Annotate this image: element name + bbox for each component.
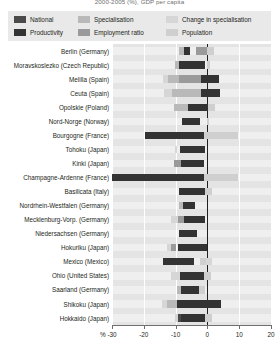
- legend-swatch-icon: [166, 16, 178, 23]
- bar-segment: [180, 146, 205, 153]
- legend-row-1: NationalSpecialisationChange in speciali…: [8, 13, 271, 26]
- bar-segment: [177, 300, 221, 307]
- bar-segment: [201, 75, 219, 82]
- bar-segment: [172, 89, 201, 96]
- bar-segment: [207, 47, 214, 54]
- bar-segment: [182, 118, 200, 125]
- x-axis-line: [112, 325, 271, 326]
- chart-root: 2000-2005 (%), GDP per capita NationalSp…: [0, 0, 279, 349]
- bar-row[interactable]: [112, 132, 271, 139]
- bar-segment: [204, 272, 211, 279]
- legend-item-employment-ratio[interactable]: Employment ratio: [78, 26, 144, 39]
- legend-item-national[interactable]: National: [14, 13, 53, 26]
- legend-label: National: [30, 16, 53, 24]
- category-label: Opolskie (Poland): [0, 104, 109, 111]
- bar-row[interactable]: [112, 118, 271, 125]
- category-label: Hokkaido (Japan): [0, 315, 109, 322]
- legend-label: Productivity: [30, 29, 63, 37]
- bar-row[interactable]: [112, 300, 271, 307]
- legend-swatch-icon: [78, 29, 90, 36]
- category-label: Ceuta (Spain): [0, 90, 109, 97]
- x-tick-label: 20: [259, 331, 279, 339]
- bar-row[interactable]: [112, 216, 271, 223]
- x-tick--30: [112, 325, 113, 329]
- bar-row[interactable]: [112, 188, 271, 195]
- category-label: Mecklenburg-Vorp. (Germany): [0, 216, 109, 223]
- bar-row[interactable]: [112, 174, 271, 181]
- bar-segment: [180, 272, 204, 279]
- bar-segment: [204, 174, 237, 181]
- bar-segment: [181, 160, 204, 167]
- bar-segment: [175, 146, 177, 153]
- bar-segment: [181, 286, 199, 293]
- category-label: Niedersachsen (Germany): [0, 230, 109, 237]
- category-label: Champagne-Ardenne (France): [0, 174, 109, 181]
- x-tick-label: 0: [195, 331, 219, 339]
- category-label: Bourgogne (France): [0, 132, 109, 139]
- bar-row[interactable]: [112, 286, 271, 293]
- bar-segment: [207, 118, 209, 125]
- x-tick-label: -10: [164, 331, 188, 339]
- category-label: Mexico (Mexico): [0, 258, 109, 265]
- bar-segment: [207, 61, 210, 68]
- bar-segment: [167, 300, 177, 307]
- bar-segment: [184, 47, 190, 54]
- bar-segment: [181, 314, 205, 321]
- bar-row[interactable]: [112, 272, 271, 279]
- gridline-x-20: [271, 44, 272, 325]
- category-label: Tohoku (Japan): [0, 146, 109, 153]
- bar-row[interactable]: [112, 89, 271, 96]
- bar-row[interactable]: [112, 104, 271, 111]
- legend-label: Employment ratio: [94, 29, 144, 37]
- bar-row[interactable]: [112, 146, 271, 153]
- bar-segment: [112, 174, 204, 181]
- bar-row[interactable]: [112, 230, 271, 237]
- bar-segment: [205, 188, 211, 195]
- bar-segment: [174, 160, 181, 167]
- bar-row[interactable]: [112, 314, 271, 321]
- legend-item-change-in-specialisation[interactable]: Change in specialisation: [166, 13, 251, 26]
- bar-row[interactable]: [112, 202, 271, 209]
- legend-item-specialisation[interactable]: Specialisation: [78, 13, 133, 26]
- bar-segment: [145, 132, 204, 139]
- bar-row[interactable]: [112, 258, 271, 265]
- bar-segment: [179, 188, 206, 195]
- x-tick-10: [239, 325, 240, 329]
- x-tick-20: [271, 325, 272, 329]
- plot-area: [112, 44, 271, 325]
- bar-row[interactable]: [112, 61, 271, 68]
- gridline-x--30: [112, 44, 113, 325]
- bar-row[interactable]: [112, 160, 271, 167]
- bar-segment: [174, 104, 188, 111]
- bar-row[interactable]: [112, 75, 271, 82]
- category-label: Kinki (Japan): [0, 160, 109, 167]
- bar-segment: [178, 244, 207, 251]
- bar-segment: [201, 89, 220, 96]
- gridline-x-10: [239, 44, 240, 325]
- legend-row-2: ProductivityEmployment ratioPopulation: [8, 26, 271, 39]
- legend-item-population[interactable]: Population: [166, 26, 212, 39]
- bar-segment: [179, 230, 197, 237]
- gridline-x--20: [144, 44, 145, 325]
- category-label: Berlin (Germany): [0, 48, 109, 55]
- bar-segment: [179, 61, 204, 68]
- chart-legend: NationalSpecialisationChange in speciali…: [8, 11, 271, 41]
- legend-swatch-icon: [166, 29, 178, 36]
- category-label: Ohio (United States): [0, 272, 109, 279]
- category-label: Nordrhein-Westfalen (Germany): [0, 202, 109, 209]
- zero-axis-line: [207, 44, 208, 325]
- category-label: Nord-Norge (Norway): [0, 118, 109, 125]
- x-tick--10: [176, 325, 177, 329]
- bar-row[interactable]: [112, 244, 271, 251]
- legend-label: Specialisation: [94, 16, 133, 24]
- bar-row[interactable]: [112, 47, 271, 54]
- category-label: Hokuriku (Japan): [0, 244, 109, 251]
- legend-label: Population: [182, 29, 212, 37]
- bar-segment: [171, 272, 180, 279]
- bar-segment: [163, 258, 194, 265]
- legend-item-productivity[interactable]: Productivity: [14, 26, 63, 39]
- legend-swatch-icon: [14, 16, 26, 23]
- legend-swatch-icon: [14, 29, 26, 36]
- bar-segment: [188, 104, 209, 111]
- category-label: Moravskoslezko (Czech Republic): [0, 62, 109, 69]
